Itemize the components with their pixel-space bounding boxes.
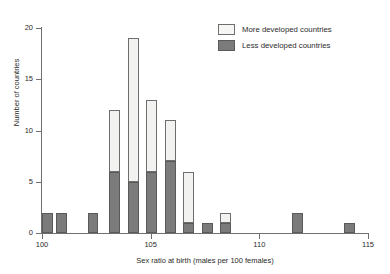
legend-label-more-developed: More developed countries: [242, 25, 332, 34]
legend-item-more-developed: More developed countries: [218, 21, 332, 37]
bar-segment-more-developed: [165, 120, 176, 161]
y-tick-15: [36, 79, 41, 80]
bar-segment-more-developed: [220, 213, 231, 223]
bar-segment-less-developed: [42, 213, 53, 234]
histogram-bar: [42, 213, 53, 234]
bar-segment-less-developed: [146, 172, 157, 234]
x-tick-105: [151, 234, 152, 239]
x-tick-label-110: 110: [239, 241, 279, 249]
bar-segment-less-developed: [183, 223, 194, 233]
x-tick-label-105: 105: [131, 241, 171, 249]
bar-segment-more-developed: [146, 100, 157, 172]
histogram-bar: [183, 172, 194, 234]
bar-segment-more-developed: [183, 172, 194, 223]
x-tick-label-115: 115: [348, 241, 388, 249]
legend-item-less-developed: Less developed countries: [218, 37, 332, 53]
x-tick-100: [42, 234, 43, 239]
chart-legend: More developed countries Less developed …: [218, 21, 332, 53]
histogram-bar: [344, 223, 355, 233]
y-tick-label-0: 0: [0, 229, 33, 237]
plot-area: [42, 28, 368, 233]
histogram-bar: [128, 38, 139, 233]
y-tick-label-5: 5: [0, 178, 33, 186]
bar-segment-less-developed: [292, 213, 303, 234]
x-axis-title: Sex ratio at birth (males per 100 female…: [42, 256, 368, 265]
histogram-chart: 05101520 100105110115 Sex ratio at birth…: [0, 0, 390, 274]
x-tick-115: [368, 234, 369, 239]
legend-swatch-less-developed-icon: [218, 40, 235, 51]
histogram-bar: [56, 213, 67, 234]
bar-segment-less-developed: [56, 213, 67, 234]
bar-segment-less-developed: [88, 213, 99, 234]
y-tick-5: [36, 182, 41, 183]
legend-label-less-developed: Less developed countries: [242, 41, 330, 50]
bar-segment-less-developed: [202, 223, 213, 233]
y-axis-title: Number of countries: [12, 33, 21, 153]
bar-segment-more-developed: [109, 110, 120, 172]
histogram-bar: [202, 223, 213, 233]
y-tick-label-20: 20: [0, 24, 33, 32]
bar-segment-less-developed: [344, 223, 355, 233]
histogram-bar: [146, 100, 157, 233]
histogram-bar: [109, 110, 120, 233]
y-tick-0: [36, 233, 41, 234]
bar-segment-less-developed: [220, 223, 231, 233]
bar-segment-less-developed: [109, 172, 120, 234]
histogram-bar: [88, 213, 99, 234]
bar-segment-less-developed: [128, 182, 139, 233]
bar-segment-more-developed: [128, 38, 139, 182]
x-axis-line: [41, 233, 369, 234]
histogram-bar: [165, 120, 176, 233]
bar-segment-less-developed: [165, 161, 176, 233]
histogram-bar: [292, 213, 303, 234]
x-tick-label-100: 100: [22, 241, 62, 249]
y-tick-10: [36, 131, 41, 132]
x-tick-110: [259, 234, 260, 239]
y-tick-20: [36, 28, 41, 29]
histogram-bar: [220, 213, 231, 234]
legend-swatch-more-developed-icon: [218, 24, 235, 35]
